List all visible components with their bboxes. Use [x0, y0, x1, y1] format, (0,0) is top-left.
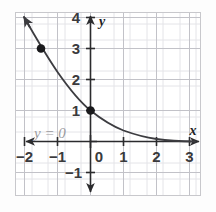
- x-axis-label: x: [189, 123, 197, 138]
- y-axis-label: y: [97, 14, 106, 29]
- x-tick-label: 1: [119, 148, 127, 165]
- y-tick-label: −1: [65, 164, 82, 181]
- x-tick-label: −2: [16, 148, 33, 165]
- x-tick-label: 0: [95, 148, 103, 165]
- x-tick-label: −1: [49, 148, 66, 165]
- graph-figure: −2 −1 0 1 2 3 4 3 2 1 −1 y x y = 0: [0, 0, 216, 212]
- y-tick-label: 4: [72, 9, 81, 26]
- x-tick-label: 3: [185, 148, 193, 165]
- x-tick-label: 2: [152, 148, 160, 165]
- y-tick-label: 2: [72, 71, 80, 88]
- plotted-point: [86, 106, 95, 115]
- asymptote-label: y = 0: [32, 125, 66, 141]
- y-tick-label: 3: [72, 40, 80, 57]
- coordinate-plane: −2 −1 0 1 2 3 4 3 2 1 −1 y x y = 0: [0, 0, 216, 212]
- plotted-point: [37, 44, 46, 53]
- y-tick-label: 1: [72, 102, 80, 119]
